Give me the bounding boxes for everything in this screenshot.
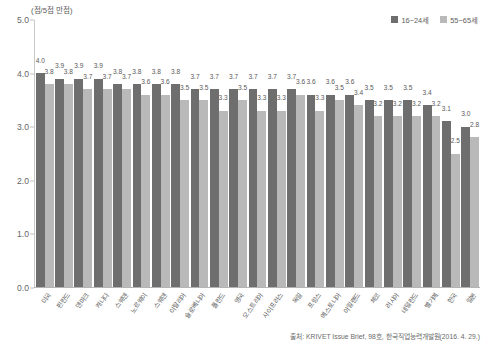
x-axis-label-cell: 덴마크 [74,289,93,333]
bar-young[interactable]: 3.7 [210,20,219,287]
bar-young[interactable]: 4.0 [36,20,45,287]
y-axis-tick-mark [30,127,34,128]
bar-rect [191,89,200,287]
bar-old[interactable]: 3.2 [393,20,402,287]
bar-old[interactable]: 3.3 [257,20,266,287]
bar-young[interactable]: 3.4 [423,20,432,287]
bar-young[interactable]: 3.9 [55,20,64,287]
bar-young[interactable]: 3.9 [74,20,83,287]
bar-old[interactable]: 3.5 [180,20,189,287]
bar-young[interactable]: 3.5 [384,20,393,287]
bar-group: 3.93.7 [93,20,112,287]
bar-value-label: 3.3 [315,96,324,104]
x-axis-label-cell: 네덜란드 [403,289,422,333]
bar-value-label: 3.8 [171,69,180,77]
bar-old[interactable]: 3.3 [219,20,228,287]
bar-value-label: 3.2 [393,101,402,109]
bar-young[interactable]: 3.8 [113,20,122,287]
bar-rect [277,111,286,287]
bar-value-label: 4.0 [36,58,45,66]
bar-rect [451,154,460,288]
bar-group: 3.53.2 [383,20,402,287]
bar-old[interactable]: 3.8 [45,20,54,287]
bar-old[interactable]: 3.7 [122,20,131,287]
x-axis-label-cell: 벨기에 [422,289,441,333]
bar-group: 3.83.6 [151,20,170,287]
bar-young[interactable]: 3.5 [403,20,412,287]
bar-young[interactable]: 3.7 [268,20,277,287]
x-axis-label-cell: 체코 [364,289,383,333]
bar-rect [412,116,421,287]
bar-old[interactable]: 3.4 [354,20,363,287]
bar-young[interactable]: 3.8 [171,20,180,287]
bar-rect [94,79,103,287]
bar-old[interactable]: 3.6 [161,20,170,287]
bar-young[interactable]: 3.1 [442,20,451,287]
bar-young[interactable]: 3.8 [152,20,161,287]
bar-group: 3.83.7 [112,20,131,287]
bar-rect [432,116,441,287]
bar-group: 3.73.5 [190,20,209,287]
bar-old[interactable]: 2.5 [451,20,460,287]
bar-young[interactable]: 3.7 [249,20,258,287]
x-axis-tick-label: 한국 [444,290,459,306]
bar-rect [36,73,45,287]
bar-rect [45,84,54,287]
bar-rect [461,127,470,287]
bar-old[interactable]: 3.5 [238,20,247,287]
bar-old[interactable]: 3.6 [296,20,305,287]
bar-old[interactable]: 3.2 [374,20,383,287]
bar-old[interactable]: 3.7 [103,20,112,287]
x-axis-label-cell: 핀란드 [54,289,73,333]
x-axis-label-cell: 아일랜드 [345,289,364,333]
bar-young[interactable]: 3.0 [461,20,470,287]
bar-young[interactable]: 3.6 [345,20,354,287]
bar-old[interactable]: 3.8 [64,20,73,287]
bar-rect [74,79,83,287]
bar-rect [268,89,277,287]
bar-value-label: 3.6 [306,80,315,88]
bar-value-label: 3.9 [55,64,64,72]
bar-old[interactable]: 3.5 [335,20,344,287]
bar-value-label: 3.5 [180,85,189,93]
bar-value-label: 3.7 [103,74,112,82]
bar-rect [423,105,432,287]
bar-value-label: 3.5 [199,85,208,93]
bar-young[interactable]: 3.6 [307,20,316,287]
bar-old[interactable]: 3.5 [199,20,208,287]
bar-old[interactable]: 3.2 [432,20,441,287]
source-note: 출처: KRIVET Issue Brief, 98호, 한국직업능력개발원(2… [0,331,480,341]
bar-old[interactable]: 3.2 [412,20,421,287]
bar-young[interactable]: 3.7 [191,20,200,287]
bar-rect [229,89,238,287]
x-axis-label-cell: 미국 [35,289,54,333]
x-axis-label-cell: 슬로베니아 [190,289,209,333]
bar-old[interactable]: 2.8 [470,20,479,287]
bar-rect [141,95,150,287]
bar-rect [315,111,324,287]
bar-old[interactable]: 3.3 [315,20,324,287]
x-axis-label-cell: 독일 [286,289,305,333]
bar-young[interactable]: 3.7 [287,20,296,287]
x-axis-tick-label: 핀란드 [54,290,73,310]
bar-series-area: 4.03.83.93.83.93.73.93.73.83.73.83.63.83… [35,20,480,287]
bar-young[interactable]: 3.9 [94,20,103,287]
x-axis-tick-label: 프랑스 [305,290,324,310]
bar-group: 3.63.3 [306,20,325,287]
bar-value-label: 3.5 [364,85,373,93]
bar-old[interactable]: 3.3 [277,20,286,287]
bar-rect [470,137,479,287]
bar-old[interactable]: 3.6 [141,20,150,287]
bar-rect [345,95,354,287]
bar-value-label: 3.7 [83,74,92,82]
bar-young[interactable]: 3.6 [326,20,335,287]
bar-old[interactable]: 3.7 [83,20,92,287]
bar-group: 3.73.5 [228,20,247,287]
bar-young[interactable]: 3.5 [365,20,374,287]
bar-value-label: 3.7 [210,74,219,82]
bar-young[interactable]: 3.7 [229,20,238,287]
bar-rect [122,89,131,287]
bar-value-label: 3.7 [122,74,131,82]
bar-group: 3.63.5 [325,20,344,287]
bar-young[interactable]: 3.8 [133,20,142,287]
